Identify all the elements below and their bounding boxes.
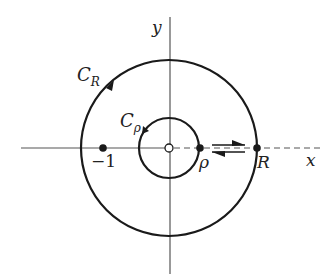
- R-label: R: [256, 152, 270, 172]
- rho-label: ρ: [198, 152, 209, 172]
- outer-contour-label: CR: [77, 64, 100, 89]
- inner-contour-label-sub: ρ: [133, 121, 141, 135]
- left-arrow-icon: [212, 151, 225, 157]
- inner-contour-label-main: C: [120, 110, 134, 131]
- outer-contour-label-sub: R: [90, 75, 100, 89]
- outer-contour-label-main: C: [77, 64, 91, 85]
- origin-hole: [165, 144, 173, 152]
- contour-diagram: y x CR Cρ −1 ρ R: [0, 0, 336, 275]
- y-axis-label: y: [151, 17, 162, 37]
- x-axis-label: x: [306, 150, 316, 170]
- neg-one-label: −1: [91, 151, 116, 171]
- inner-contour-label: Cρ: [120, 110, 141, 135]
- point-R: [253, 144, 261, 152]
- point-rho: [196, 144, 204, 152]
- right-arrow-icon: [232, 140, 245, 146]
